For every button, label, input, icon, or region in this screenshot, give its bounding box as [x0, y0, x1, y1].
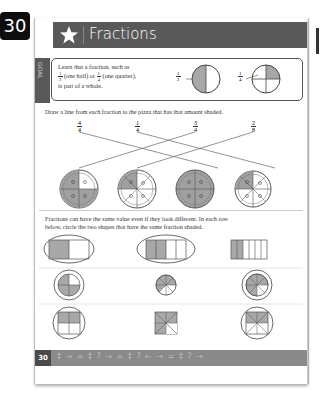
row-1-shape-half-rect[interactable]: [44, 235, 94, 263]
fraction-quarter: 14: [97, 71, 102, 82]
match-line-1-4[interactable]: [137, 132, 275, 168]
worksheet-page: Fractions GOAL Learn that a fraction, su…: [34, 18, 307, 384]
goal-tab: GOAL: [35, 58, 50, 103]
example-half-label: 12: [176, 71, 181, 82]
star-icon: [59, 25, 79, 45]
footer-decoration: ‡ → = ‡ ? → = ‡ ? ← → = ‡ ? →: [57, 352, 204, 361]
header-separator: [83, 26, 84, 44]
page-number-badge: 30: [0, 12, 30, 40]
row-3-square-four-eighths[interactable]: [241, 307, 273, 339]
next-page-header-edge: [316, 28, 319, 54]
matching-lines-and-pizzas: [35, 130, 307, 220]
section2-instruction: Fractions can have the same value even i…: [45, 215, 228, 231]
row-2-circle-six-eighths[interactable]: [242, 270, 272, 300]
section-divider: [39, 210, 303, 211]
pizza-three-quarters[interactable]: [60, 170, 98, 208]
quarter-circle-diagram: [244, 62, 284, 96]
goal-line-3: is part of a whole.: [58, 82, 158, 90]
row-2-circle-three-quarters[interactable]: [54, 270, 84, 300]
match-line-2-8[interactable]: [137, 132, 253, 168]
page-footer: 30 ‡ → = ‡ ? → = ‡ ? ← → = ‡ ? →: [35, 350, 307, 366]
footer-page-number: 30: [35, 350, 51, 366]
pizza-one-quarter[interactable]: [118, 170, 156, 208]
next-page-edge: [308, 18, 309, 384]
goal-line-2: 12 (one half) or 14 (one quarter),: [58, 71, 158, 82]
match-line-4-4[interactable]: [79, 132, 218, 168]
goal-text: Learn that a fraction, such as 12 (one h…: [58, 63, 158, 90]
page-header: Fractions: [53, 22, 307, 48]
fraction-half: 12: [58, 71, 63, 82]
row-3-square-eighths: [155, 312, 177, 334]
equivalent-fraction-shapes: [35, 234, 307, 350]
half-circle-diagram: [182, 62, 222, 96]
row-3-square-half[interactable]: [53, 307, 85, 339]
goal-box: Learn that a fraction, such as 12 (one h…: [51, 58, 303, 101]
row-1-shape-sixths-rect: [231, 240, 267, 259]
pizza-two-eighths[interactable]: [235, 171, 271, 207]
example-quarter-label: 14: [238, 71, 243, 82]
goal-line-1: Learn that a fraction, such as: [58, 63, 158, 71]
pizza-whole[interactable]: [176, 170, 214, 208]
page-title: Fractions: [89, 25, 157, 43]
goal-tab-label: GOAL: [37, 62, 44, 79]
row-2-circle-eighths: [156, 275, 176, 295]
match-line-3-4[interactable]: [79, 132, 195, 168]
section1-instruction: Draw a line from each fraction to the pi…: [45, 108, 223, 116]
row-1-shape-quarters-rect[interactable]: [137, 235, 195, 263]
